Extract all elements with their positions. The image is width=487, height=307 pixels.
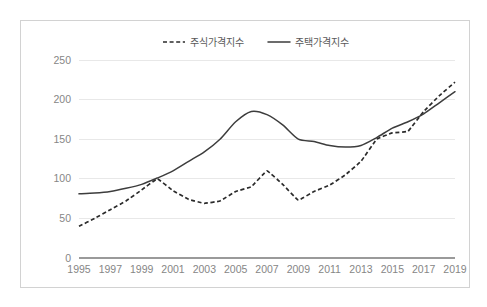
y-axis-tick-label: 150 [53, 133, 71, 145]
legend-label-2: 주택가격지수 [295, 36, 349, 48]
series-group [79, 82, 455, 226]
gridlines-group [79, 60, 455, 258]
x-axis-tick-label: 2015 [381, 263, 405, 275]
chart-legend: 주식가격지수주택가격지수 [163, 36, 349, 48]
y-axis-tick-label: 0 [65, 252, 71, 264]
x-axis-tick-labels: 1995199719992001200320052007200920112013… [67, 263, 467, 275]
x-axis-tick-label: 2001 [161, 263, 185, 275]
y-axis-tick-label: 100 [53, 172, 71, 184]
x-axis-tick-label: 1995 [67, 263, 91, 275]
x-axis-tick-label: 1997 [99, 263, 123, 275]
y-axis-tick-label: 50 [59, 212, 71, 224]
x-axis-tick-label: 1999 [130, 263, 154, 275]
x-axis-tick-label: 2011 [318, 263, 341, 275]
x-axis-tick-label: 2003 [193, 263, 217, 275]
x-axis-tick-label: 2005 [224, 263, 248, 275]
chart-container: 050100150200250 199519971999200120032005… [0, 0, 487, 307]
x-axis-tick-label: 2013 [349, 263, 373, 275]
y-axis-tick-label: 250 [53, 54, 71, 66]
series-line-1 [79, 82, 455, 226]
y-axis-tick-labels: 050100150200250 [53, 54, 71, 264]
x-axis-tick-label: 2007 [255, 263, 279, 275]
x-axis-tick-label: 2019 [443, 263, 467, 275]
y-axis-tick-label: 200 [53, 93, 71, 105]
line-chart: 050100150200250 199519971999200120032005… [0, 0, 487, 307]
legend-label-1: 주식가격지수 [190, 36, 244, 48]
x-axis-tick-label: 2009 [287, 263, 311, 275]
x-axis-tick-label: 2017 [412, 263, 436, 275]
